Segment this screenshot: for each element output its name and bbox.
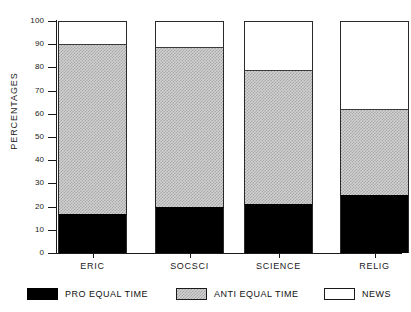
white-swatch-icon (324, 288, 355, 300)
bar-relig (340, 21, 409, 253)
legend-label: PRO EQUAL TIME (65, 289, 148, 299)
bar-socsci (155, 21, 224, 253)
x-tick-label: SCIENCE (224, 261, 334, 271)
y-tick-mark (48, 160, 56, 161)
x-tick-mark (190, 253, 191, 258)
y-tick-label: 30 (0, 179, 44, 187)
legend-item: PRO EQUAL TIME (27, 286, 148, 302)
bar-segment (155, 21, 224, 47)
y-axis-line (56, 20, 57, 254)
y-tick-mark (48, 67, 56, 68)
y-tick-label: 50 (0, 133, 44, 141)
y-tick-mark (48, 91, 56, 92)
bar-segment (340, 109, 409, 195)
y-tick-label: 70 (0, 87, 44, 95)
legend-item: NEWS (324, 286, 391, 302)
y-tick-mark (48, 114, 56, 115)
bar-segment (58, 21, 127, 44)
bar-segment (58, 214, 127, 253)
stacked-bar-chart: PERCENTAGES 0102030405060708090100 ERICS… (0, 0, 411, 312)
x-tick-mark (375, 253, 376, 258)
y-tick-label: 60 (0, 110, 44, 118)
y-tick-label: 90 (0, 40, 44, 48)
bar-science (244, 21, 313, 253)
y-tick-mark (48, 183, 56, 184)
x-tick-mark (93, 253, 94, 258)
chart-legend: PRO EQUAL TIMEANTI EQUAL TIMENEWS (0, 286, 411, 306)
black-swatch-icon (27, 288, 58, 300)
y-tick-label: 80 (0, 63, 44, 71)
legend-item: ANTI EQUAL TIME (176, 286, 299, 302)
y-tick-label: 40 (0, 156, 44, 164)
x-tick-label: RELIG (320, 261, 411, 271)
x-tick-mark (279, 253, 280, 258)
y-tick-label: 0 (0, 249, 44, 257)
y-tick-mark (48, 44, 56, 45)
bar-segment (244, 204, 313, 253)
bar-segment (155, 47, 224, 207)
bar-eric (58, 21, 127, 253)
bar-segment (340, 21, 409, 109)
bar-segment (340, 195, 409, 253)
bar-segment (244, 21, 313, 70)
gray-swatch-icon (176, 288, 207, 300)
legend-label: ANTI EQUAL TIME (214, 289, 299, 299)
bar-segment (244, 70, 313, 205)
y-tick-mark (48, 21, 56, 22)
y-tick-mark (48, 253, 56, 254)
y-tick-label: 10 (0, 226, 44, 234)
y-tick-mark (48, 230, 56, 231)
bar-segment (155, 207, 224, 253)
y-tick-mark (48, 137, 56, 138)
x-axis-line (56, 253, 402, 254)
y-tick-label: 20 (0, 203, 44, 211)
bar-segment (58, 44, 127, 213)
y-tick-label: 100 (0, 17, 44, 25)
y-tick-mark (48, 207, 56, 208)
legend-label: NEWS (362, 289, 391, 299)
x-tick-label: ERIC (38, 261, 148, 271)
